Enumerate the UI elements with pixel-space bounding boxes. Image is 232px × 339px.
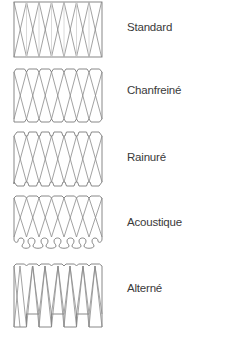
- alternating-profile-icon: [12, 263, 104, 329]
- profile-label-alterne: Alterné: [127, 282, 162, 294]
- chamfered-profile-icon: [12, 68, 104, 123]
- panel-chanfreine-diagram: [12, 68, 104, 123]
- profile-label-rainure: Rainuré: [127, 151, 166, 163]
- grooved-profile-icon: [12, 131, 104, 187]
- panel-rainure-diagram: [12, 131, 104, 187]
- standard-profile-icon: [12, 1, 104, 58]
- profile-label-chanfreine: Chanfreiné: [127, 84, 181, 96]
- panel-acoustique-diagram: [12, 195, 104, 251]
- profile-label-standard: Standard: [127, 21, 172, 33]
- panel-alterne-diagram: [12, 263, 104, 329]
- panel-standard-diagram: [12, 1, 104, 58]
- acoustic-profile-icon: [12, 195, 104, 251]
- profile-label-acoustique: Acoustique: [127, 216, 182, 228]
